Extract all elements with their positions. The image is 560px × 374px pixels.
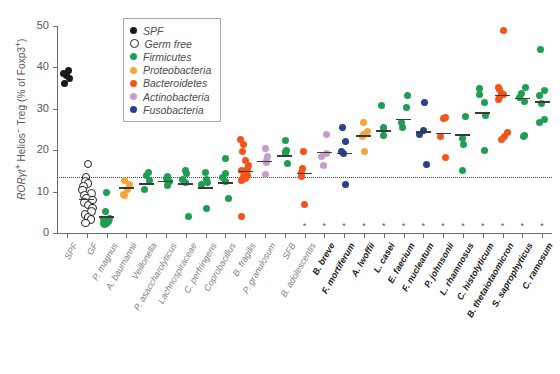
x-tick-mark [463, 234, 464, 238]
legend-item: SPF [130, 24, 211, 37]
data-point [238, 177, 245, 184]
x-tick-mark [245, 234, 246, 238]
x-tick-mark [166, 234, 167, 238]
data-point [121, 192, 128, 199]
y-tick-label: 30 [23, 102, 49, 114]
y-tick-label: 0 [23, 226, 49, 238]
significance-star: * [422, 222, 426, 231]
data-point [481, 99, 488, 106]
x-tick-mark [265, 234, 266, 238]
x-tick-mark [107, 234, 108, 238]
significance-star: * [481, 222, 485, 231]
data-point [240, 141, 247, 148]
legend-swatch-icon [130, 93, 137, 100]
data-point [238, 213, 245, 220]
x-tick-mark [305, 234, 306, 238]
y-tick-label: 10 [23, 185, 49, 197]
x-tick-mark [67, 234, 68, 238]
data-point [203, 205, 210, 212]
mean-bar [277, 155, 292, 156]
significance-star: * [362, 222, 366, 231]
x-tick-mark [206, 234, 207, 238]
mean-bar [317, 152, 332, 153]
mean-bar [158, 181, 173, 182]
mean-bar [218, 182, 233, 183]
data-point [403, 104, 410, 111]
legend-swatch-icon [130, 80, 137, 87]
data-point [421, 99, 428, 106]
significance-star: * [501, 222, 505, 231]
legend-label: Proteobacteria [143, 64, 211, 76]
significance-star: * [461, 222, 465, 231]
significance-star: * [521, 222, 525, 231]
data-point [284, 160, 291, 167]
data-point [298, 173, 305, 180]
data-point [84, 160, 93, 169]
data-point [323, 131, 330, 138]
mean-bar [99, 216, 114, 217]
data-point [536, 92, 543, 99]
significance-star: * [402, 222, 406, 231]
y-tick-label: 50 [23, 19, 49, 31]
data-point [361, 148, 368, 155]
x-tick-mark [225, 234, 226, 238]
legend-label: Fusobacteria [143, 104, 204, 116]
data-point [476, 91, 483, 98]
legend-item: Firmicutes [130, 50, 211, 63]
data-point [380, 132, 387, 139]
data-point [141, 186, 148, 193]
x-tick-mark [483, 234, 484, 238]
data-point [202, 169, 209, 176]
x-tick-mark [186, 234, 187, 238]
mean-bar [495, 95, 510, 96]
x-tick-mark [324, 234, 325, 238]
data-point [101, 221, 108, 228]
legend-label: SPF [143, 25, 163, 37]
y-tick-label: 20 [23, 143, 49, 155]
x-tick-mark [542, 234, 543, 238]
data-point [440, 115, 447, 122]
mean-bar [337, 153, 352, 154]
data-point [500, 27, 507, 34]
significance-star: * [342, 222, 346, 231]
mean-bar [455, 134, 470, 135]
mean-bar [257, 161, 272, 162]
y-axis-line [57, 26, 58, 233]
scatter-plot-figure: RORγt+ Helios− Treg (% of Foxp3+) 010203… [0, 0, 560, 374]
significance-star: * [540, 222, 544, 231]
mean-bar [119, 187, 134, 188]
x-tick-mark [404, 234, 405, 238]
data-point [81, 219, 90, 228]
mean-bar [436, 133, 451, 134]
data-point [103, 189, 110, 196]
data-point [342, 138, 349, 145]
mean-bar [238, 171, 253, 172]
data-point [520, 133, 527, 140]
significance-star: * [303, 222, 307, 231]
data-point [399, 124, 406, 131]
data-point [481, 147, 488, 154]
mean-bar [139, 183, 154, 184]
mean-bar [178, 183, 193, 184]
legend-swatch-icon [130, 53, 137, 60]
legend-swatch-icon [130, 67, 137, 74]
mean-bar [475, 112, 490, 113]
data-point [61, 80, 68, 87]
mean-bar [376, 130, 391, 131]
data-point [495, 96, 502, 103]
data-point [320, 162, 327, 169]
data-point [462, 113, 469, 120]
mean-bar [79, 199, 94, 200]
mean-bar [416, 131, 431, 132]
legend-item: Proteobacteria [130, 64, 211, 77]
legend-label: Bacteroidetes [143, 77, 207, 89]
x-tick-mark [285, 234, 286, 238]
data-point [378, 102, 385, 109]
data-point [204, 179, 211, 186]
legend-swatch-icon [130, 27, 137, 34]
mean-bar [535, 101, 550, 102]
legend: SPFGerm freeFirmicutesProteobacteriaBact… [123, 18, 221, 122]
data-point [339, 124, 346, 131]
x-tick-mark [503, 234, 504, 238]
significance-star: * [441, 222, 445, 231]
